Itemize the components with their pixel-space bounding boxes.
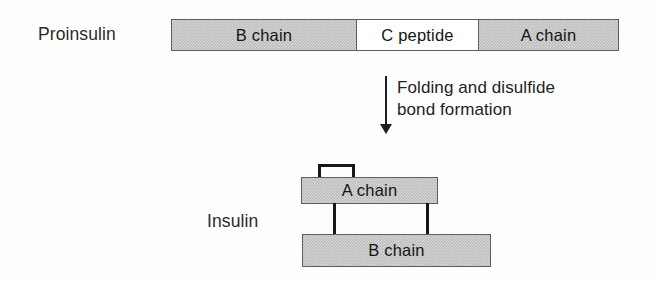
proinsulin-segment-a-chain-label: A chain [479, 26, 618, 45]
transition-arrow-head-icon [380, 124, 392, 134]
proinsulin-row-label: Proinsulin [38, 24, 116, 45]
interchain-disulfide-bond-left [333, 203, 336, 235]
insulin-segment-b-chain-label: B chain [303, 241, 490, 260]
proinsulin-to-insulin-diagram: Proinsulin B chain C peptide A chain Fol… [0, 0, 655, 282]
proinsulin-segment-c-peptide-label: C peptide [357, 26, 478, 45]
proinsulin-segment-a-chain: A chain [478, 19, 619, 51]
proinsulin-segment-c-peptide: C peptide [356, 19, 479, 51]
interchain-disulfide-bond-right [426, 203, 429, 235]
insulin-row-label: Insulin [207, 211, 258, 232]
proinsulin-segment-b-chain: B chain [171, 19, 357, 51]
proinsulin-segment-b-chain-label: B chain [172, 26, 356, 45]
transition-arrow-caption: Folding and disulfide bond formation [397, 77, 555, 121]
insulin-segment-b-chain: B chain [302, 234, 491, 267]
transition-arrow-shaft [385, 76, 387, 126]
insulin-segment-a-chain: A chain [301, 177, 438, 204]
insulin-segment-a-chain-label: A chain [302, 181, 437, 200]
